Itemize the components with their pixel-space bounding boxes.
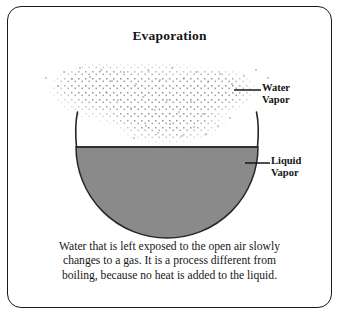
caption-line-2: changes to a gas. It is a process differ… [20,254,319,268]
caption-line-1: Water that is left exposed to the open a… [20,240,319,254]
water-vapor-label-line2: Vapor [262,94,290,105]
water-vapor-stipple [30,58,280,150]
liquid-vapor-label: Liquid Vapor [271,155,301,178]
water-vapor-label: Water Vapor [262,82,290,105]
liquid-vapor-label-line1: Liquid [271,155,301,166]
water-vapor-label-line1: Water [262,82,290,93]
figure-page: Evaporation [0,0,339,314]
caption-line-3: boiling, because no heat is added to the… [20,269,319,283]
liquid-vapor-label-line2: Vapor [271,167,299,178]
liquid-body [76,147,258,238]
figure-caption: Water that is left exposed to the open a… [20,240,319,283]
